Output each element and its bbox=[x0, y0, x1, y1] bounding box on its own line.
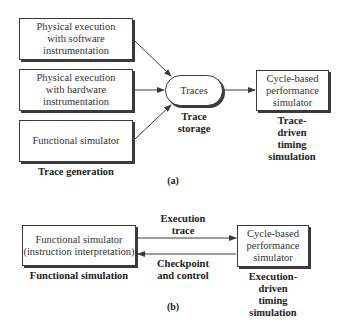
execution-trace-label: Execution trace bbox=[161, 213, 206, 237]
trace-driven-simulator-box: Cycle-based performance simulator bbox=[256, 70, 329, 111]
source-software-instrumentation: Physical execution with software instrum… bbox=[19, 18, 133, 60]
execution-driven-caption: Execution-driven timing simulation bbox=[237, 271, 310, 319]
trace-driven-caption: Trace-driven timing simulation bbox=[265, 115, 319, 163]
source-hardware-instrumentation: Physical execution with hardware instrum… bbox=[19, 69, 133, 111]
traces-storage-node: Traces bbox=[165, 75, 223, 106]
execution-driven-simulator-box: Cycle-based performance simulator bbox=[237, 225, 309, 267]
trace-generation-caption: Trace generation bbox=[38, 166, 114, 178]
figure-label-a: (a) bbox=[167, 175, 179, 186]
arrow-software-to-traces bbox=[135, 41, 171, 76]
source-functional-simulator: Functional simulator bbox=[19, 120, 133, 162]
figure-label-b: (b) bbox=[167, 301, 179, 312]
functional-simulator-box: Functional simulator (instruction interp… bbox=[22, 225, 136, 266]
functional-simulation-caption: Functional simulation bbox=[30, 270, 128, 282]
trace-simulation-diagram: Physical execution with software instrum… bbox=[0, 0, 346, 323]
arrow-functional-to-traces bbox=[135, 105, 171, 139]
checkpoint-control-label: Checkpoint and control bbox=[157, 258, 209, 282]
trace-storage-caption: Trace storage bbox=[178, 111, 211, 135]
